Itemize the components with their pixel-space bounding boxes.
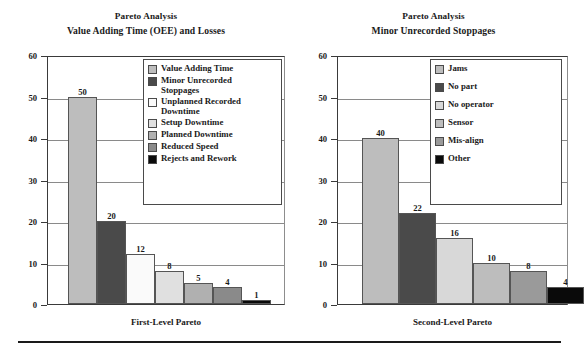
legend-swatch-icon [148, 98, 157, 107]
bar-value-label: 16 [430, 229, 479, 238]
bar [436, 238, 473, 304]
legend-right: JamsNo partNo operatorSensorMis-alignOth… [430, 59, 562, 205]
legend-item: Minor Unrecorded Stoppages [148, 75, 277, 95]
bar-value-label: 10 [467, 254, 516, 263]
legend-label: Planned Downtime [161, 129, 233, 139]
bar-value-label: 20 [91, 212, 132, 221]
legend-label: Other [448, 153, 470, 163]
legend-swatch-icon [148, 131, 157, 140]
y-axis-label: 40 [11, 135, 37, 144]
bar-value-label: 4 [541, 278, 588, 287]
bar-value-label: 50 [62, 88, 103, 97]
legend-label: Minor Unrecorded Stoppages [161, 75, 232, 95]
chart-title-left: Pareto Analysis [0, 12, 292, 22]
bar-value-label: 1 [236, 291, 277, 300]
legend-item: Setup Downtime [148, 117, 277, 128]
legend-left: Value Adding TimeMinor Unrecorded Stoppa… [143, 59, 282, 205]
legend-item: Rejects and Rework [148, 153, 277, 164]
legend-swatch-icon [435, 155, 444, 164]
y-axis-label: 10 [11, 260, 37, 269]
legend-swatch-icon [435, 137, 444, 146]
bar [242, 300, 271, 304]
bar [68, 97, 97, 305]
legend-label: Jams [448, 63, 468, 73]
legend-label: Reduced Speed [161, 141, 218, 151]
bar-value-label: 8 [149, 262, 190, 271]
chart-subtitle-left: Value Adding Time (OEE) and Losses [0, 26, 292, 36]
legend-item: Value Adding Time [148, 63, 277, 74]
legend-swatch-icon [148, 65, 157, 74]
bar [97, 221, 126, 304]
y-axis-label: 30 [11, 177, 37, 186]
legend-label: No operator [448, 99, 494, 109]
legend-item: Unplanned Recorded Downtime [148, 96, 277, 116]
y-axis-label: 0 [11, 301, 37, 310]
legend-swatch-icon [148, 77, 157, 86]
legend-swatch-icon [148, 119, 157, 128]
legend-item: Jams [435, 63, 557, 74]
bar [510, 271, 547, 304]
bar [547, 287, 584, 304]
y-axis-label: 20 [11, 218, 37, 227]
bar-value-label: 8 [504, 262, 553, 271]
legend-label: Sensor [448, 117, 473, 127]
footer-divider [18, 341, 561, 343]
legend-item: Mis-align [435, 135, 557, 146]
legend-item: Reduced Speed [148, 141, 277, 152]
y-axis-label: 60 [11, 52, 37, 61]
legend-label: Rejects and Rework [161, 153, 237, 163]
legend-swatch-icon [435, 83, 444, 92]
legend-item: Sensor [435, 117, 557, 128]
chart-panel-first-level: Pareto Analysis Value Adding Time (OEE) … [0, 0, 292, 330]
legend-item: Other [435, 153, 557, 164]
legend-swatch-icon [148, 143, 157, 152]
x-axis-caption-right: Second-Level Pareto [337, 317, 568, 327]
legend-label: Unplanned Recorded Downtime [161, 96, 241, 116]
legend-item: No operator [435, 99, 557, 110]
legend-item: No part [435, 81, 557, 92]
bar [399, 213, 436, 304]
legend-label: No part [448, 81, 477, 91]
legend-swatch-icon [435, 119, 444, 128]
legend-label: Value Adding Time [161, 63, 233, 73]
legend-swatch-icon [148, 155, 157, 164]
chart-subtitle-right: Minor Unrecorded Stoppages [292, 26, 575, 36]
chart-title-right: Pareto Analysis [292, 12, 575, 22]
legend-item: Planned Downtime [148, 129, 277, 140]
legend-swatch-icon [435, 101, 444, 110]
bar [362, 138, 399, 304]
bar-value-label: 4 [207, 278, 248, 287]
y-axis-tick [41, 305, 47, 306]
legend-swatch-icon [435, 65, 444, 74]
legend-label: Mis-align [448, 135, 484, 145]
bar-value-label: 12 [120, 245, 161, 254]
bar-value-label: 40 [356, 129, 405, 138]
y-axis-label: 50 [11, 94, 37, 103]
legend-label: Setup Downtime [161, 117, 223, 127]
x-axis-caption-left: First-Level Pareto [47, 317, 285, 327]
figure-caption-clipped [18, 348, 561, 353]
